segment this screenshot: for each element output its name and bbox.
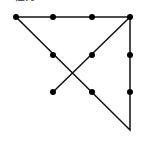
- dot-r1-c3: [127, 52, 133, 58]
- dot-r2-c1: [50, 89, 56, 95]
- dot-r1-c1: [50, 52, 56, 58]
- dot-r2-c3: [127, 89, 133, 95]
- dot-r2-c2: [89, 89, 95, 95]
- dot-r0-c3: [127, 14, 133, 20]
- dot-r0-c0: [13, 14, 19, 20]
- dot-r1-c2: [89, 52, 95, 58]
- dots: [13, 14, 133, 95]
- dot-r0-c1: [50, 14, 56, 20]
- dot-puzzle-diagram: [0, 0, 151, 142]
- solution-path: [16, 17, 130, 130]
- connecting-lines: [16, 17, 130, 130]
- dot-r0-c2: [89, 14, 95, 20]
